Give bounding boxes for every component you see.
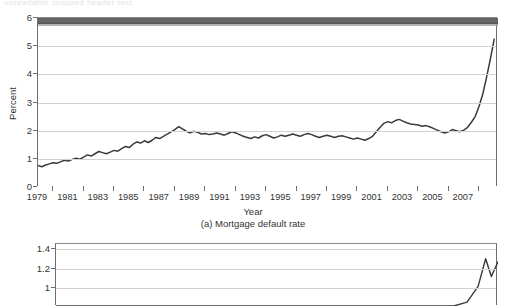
y-tick-label: 1.2 [37, 262, 50, 273]
y-tick-mark [33, 45, 37, 46]
series-b [56, 244, 498, 306]
y-tick-label: 1 [45, 282, 50, 293]
x-tick-mark [265, 186, 266, 191]
x-tick-mark [174, 186, 175, 191]
x-tick-label: 2005 [422, 192, 442, 202]
y-tick-label: 3 [27, 96, 32, 107]
x-tick-label: 1995 [270, 192, 290, 202]
x-tick-label: 1983 [88, 192, 108, 202]
y-tick-label: 0 [27, 181, 32, 192]
panel-a-caption: (a) Mortgage default rate [0, 218, 506, 229]
y-tick-mark [33, 17, 37, 18]
y-tick-mark [33, 102, 37, 103]
y-tick-mark [33, 158, 37, 159]
x-tick-label: 1981 [57, 192, 77, 202]
gridline [38, 74, 496, 75]
cropped-top-text: unreadable cropped header text [4, 0, 132, 6]
gridline [56, 288, 496, 289]
x-tick-label: 1979 [27, 192, 47, 202]
y-tick-label: 1 [27, 152, 32, 163]
gridline [38, 46, 496, 47]
x-tick-mark [356, 186, 357, 191]
x-tick-mark [143, 186, 144, 191]
x-tick-mark [235, 186, 236, 191]
y-tick-label: 6 [27, 12, 32, 23]
x-tick-mark [448, 186, 449, 191]
x-tick-label: 1989 [179, 192, 199, 202]
x-tick-mark [113, 186, 114, 191]
scan-artifact-shadow [38, 24, 498, 26]
y-tick-label: 2 [27, 124, 32, 135]
x-tick-mark [52, 186, 53, 191]
panel-mortgage-default-rate: Percent 0123456 197919811983198519871989… [0, 8, 506, 223]
x-tick-label: 1993 [240, 192, 260, 202]
y-tick-label: 1.4 [37, 242, 50, 253]
y-tick-label: 5 [27, 40, 32, 51]
x-axis-labels-a: 1979198119831985198719891991199319951997… [37, 192, 497, 206]
x-tick-label: 2007 [453, 192, 473, 202]
x-tick-mark [204, 186, 205, 191]
x-tick-label: 1997 [300, 192, 320, 202]
gridline [56, 249, 496, 250]
y-tick-mark [51, 268, 55, 269]
gridline [38, 131, 496, 132]
panel-b-cropped: 11.21.4 [0, 243, 506, 303]
y-tick-mark [51, 248, 55, 249]
x-axis-title: Year [0, 206, 506, 217]
x-tick-label: 1985 [118, 192, 138, 202]
y-tick-mark [33, 73, 37, 74]
y-axis-title: Percent [7, 79, 18, 129]
x-tick-mark [417, 186, 418, 191]
gridline [38, 159, 496, 160]
x-tick-mark [296, 186, 297, 191]
y-tick-mark [33, 130, 37, 131]
gridline [56, 269, 496, 270]
x-tick-mark [478, 186, 479, 191]
x-tick-label: 1999 [331, 192, 351, 202]
x-tick-mark [387, 186, 388, 191]
x-tick-mark [326, 186, 327, 191]
x-tick-label: 2003 [392, 192, 412, 202]
plot-area-b [55, 243, 497, 305]
plot-area-a [37, 17, 497, 186]
x-tick-mark [83, 186, 84, 191]
x-tick-label: 1991 [209, 192, 229, 202]
x-tick-label: 2001 [361, 192, 381, 202]
y-tick-mark [51, 287, 55, 288]
y-tick-label: 4 [27, 68, 32, 79]
x-tick-label: 1987 [148, 192, 168, 202]
gridline [38, 103, 496, 104]
